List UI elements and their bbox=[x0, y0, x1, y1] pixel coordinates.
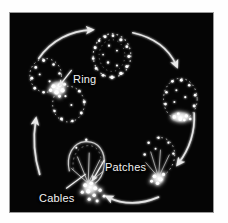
micrograph-panel: Ring Patches Cables bbox=[9, 12, 214, 213]
figure-root: Ring Patches Cables bbox=[0, 0, 228, 223]
micrograph-canvas bbox=[10, 13, 213, 212]
